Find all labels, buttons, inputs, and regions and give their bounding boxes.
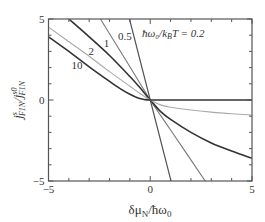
chart: −505−505 10210.5 ħω₀/kBT = 0.2 δμN/ħω0 j… bbox=[0, 0, 265, 222]
y-axis-label: jsF1N/js0F1N bbox=[10, 81, 27, 121]
curve-label: 1 bbox=[104, 37, 110, 49]
y-tick-label: 0 bbox=[39, 94, 45, 106]
plot-curves bbox=[49, 19, 253, 181]
y-tick-label: 5 bbox=[39, 13, 45, 25]
x-axis-label: δμN/ħω0 bbox=[129, 202, 172, 219]
x-tick-label: 0 bbox=[148, 183, 154, 195]
curve-label: 0.5 bbox=[118, 30, 132, 42]
x-tick-label: 5 bbox=[249, 183, 255, 195]
annotation-text: ħω₀/kBT = 0.2 bbox=[142, 27, 205, 41]
y-tick-label: −5 bbox=[33, 175, 45, 187]
curve-label: 10 bbox=[71, 59, 83, 71]
curve-label: 2 bbox=[88, 45, 94, 57]
